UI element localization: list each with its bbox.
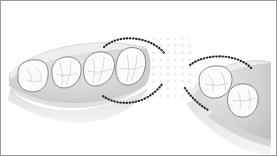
edentulous-space bbox=[148, 38, 196, 97]
tooth-R1-abutment bbox=[199, 66, 232, 98]
tooth-R2 bbox=[228, 84, 259, 117]
figure-container: Posterior edentulous space with surveyed… bbox=[0, 0, 277, 156]
dental-arch-diagram: Posterior edentulous space with surveyed… bbox=[0, 0, 277, 156]
tooth-L1 bbox=[18, 60, 48, 92]
